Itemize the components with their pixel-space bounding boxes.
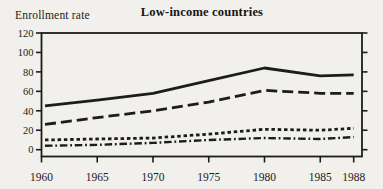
long-dash-line — [45, 90, 354, 124]
x-axis-tick-label: 1975 — [197, 171, 220, 183]
x-axis-tick-label: 1988 — [342, 171, 365, 183]
short-dash-line — [45, 128, 354, 140]
y-axis-tick-label: 80 — [23, 67, 34, 78]
y-axis-tick-label: 20 — [23, 125, 34, 136]
solid-line — [45, 68, 354, 106]
x-axis-tick-label: 1970 — [142, 171, 165, 183]
x-axis-tick-label: 1960 — [30, 171, 53, 183]
line-chart: 0204060801001201960196519701975198019851… — [0, 0, 383, 189]
y-axis-tick-label: 60 — [23, 86, 34, 97]
x-axis-tick-label: 1985 — [309, 171, 332, 183]
x-axis-tick-label: 1965 — [86, 171, 109, 183]
y-axis-tick-label: 40 — [23, 106, 34, 117]
y-axis-tick-label: 0 — [28, 144, 33, 155]
figure: Enrollment rate Low-income countries 020… — [0, 0, 383, 189]
x-axis-tick-label: 1980 — [253, 171, 276, 183]
y-axis-tick-label: 100 — [18, 47, 34, 58]
y-axis-tick-label: 120 — [18, 28, 34, 39]
